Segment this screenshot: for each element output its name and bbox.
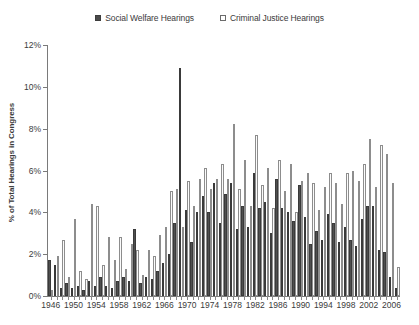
x-axis-tick-label: 1998	[337, 300, 356, 310]
bar-criminal-justice	[397, 267, 399, 296]
x-axis-tick	[312, 296, 313, 300]
x-axis-tick	[284, 296, 285, 300]
plot-area: 0%2%4%6%8%10%12% 19461950195419581962196…	[48, 45, 400, 296]
x-axis-tick	[261, 296, 262, 300]
x-axis-tick	[221, 296, 222, 300]
x-axis-tick	[198, 296, 199, 300]
x-axis-tick-label: 1958	[109, 300, 128, 310]
x-axis-tick	[102, 296, 103, 300]
x-axis-tick	[374, 296, 375, 300]
x-axis-tick	[238, 296, 239, 300]
year-bar-group	[394, 45, 400, 296]
y-axis-tick	[43, 212, 47, 213]
x-axis-tick-label: 1982	[246, 300, 265, 310]
legend-label-criminal-justice: Criminal Justice Hearings	[230, 14, 324, 23]
x-axis-tick-label: 1962	[132, 300, 151, 310]
x-axis-tick	[85, 296, 86, 300]
y-axis-tick-label: 12%	[24, 40, 41, 50]
x-axis-tick	[62, 296, 63, 300]
y-axis-tick-label: 10%	[24, 82, 41, 92]
x-axis-tick-label: 1994	[314, 300, 333, 310]
legend-entry-criminal-justice: Criminal Justice Hearings	[220, 14, 324, 23]
x-axis-tick-label: 1954	[87, 300, 106, 310]
y-axis-tick-label: 0%	[29, 291, 41, 301]
x-axis-tick-label: 2002	[359, 300, 378, 310]
x-axis-tick	[397, 296, 398, 300]
x-axis-tick-label: 1950	[64, 300, 83, 310]
x-axis-tick-label: 2006	[382, 300, 401, 310]
x-axis-tick-label: 1978	[223, 300, 242, 310]
y-axis-tick	[43, 171, 47, 172]
x-axis-tick-label: 1966	[155, 300, 174, 310]
x-axis-tick	[130, 296, 131, 300]
x-axis-tick	[357, 296, 358, 300]
x-axis-tick	[170, 296, 171, 300]
filled-square-icon	[95, 15, 101, 21]
x-axis-tick	[153, 296, 154, 300]
x-axis-tick	[193, 296, 194, 300]
legend-label-social-welfare: Social Welfare Hearings	[105, 14, 194, 23]
x-axis-tick-label: 1946	[41, 300, 60, 310]
x-axis-tick	[108, 296, 109, 300]
chart-legend: Social Welfare Hearings Criminal Justice…	[0, 14, 419, 23]
y-axis-tick	[43, 129, 47, 130]
y-axis-title: % of Total Hearings in Congress	[4, 0, 20, 325]
y-axis-tick-label: 2%	[29, 249, 41, 259]
x-axis-tick	[380, 296, 381, 300]
x-axis-tick-label: 1990	[291, 300, 310, 310]
hollow-square-icon	[220, 15, 226, 21]
x-axis-tick-label: 1974	[200, 300, 219, 310]
x-axis-tick	[306, 296, 307, 300]
y-axis-tick-label: 8%	[29, 124, 41, 134]
y-axis-tick	[43, 254, 47, 255]
y-axis-tick	[43, 296, 47, 297]
x-axis-tick	[267, 296, 268, 300]
x-axis-tick	[244, 296, 245, 300]
x-axis-tick	[352, 296, 353, 300]
x-axis-tick-label: 1970	[178, 300, 197, 310]
y-axis-tick-label: 6%	[29, 166, 41, 176]
bar-chart: Social Welfare Hearings Criminal Justice…	[0, 0, 419, 325]
y-axis-tick-label: 4%	[29, 207, 41, 217]
x-axis-tick	[329, 296, 330, 300]
y-axis-title-text: % of Total Hearings in Congress	[8, 103, 17, 222]
x-axis-tick	[335, 296, 336, 300]
y-axis-tick	[43, 87, 47, 88]
x-axis-tick-label: 1986	[268, 300, 287, 310]
x-axis-tick	[176, 296, 177, 300]
legend-entry-social-welfare: Social Welfare Hearings	[95, 14, 194, 23]
y-axis-tick	[43, 45, 47, 46]
x-axis-tick	[125, 296, 126, 300]
x-axis-tick	[57, 296, 58, 300]
x-axis-tick	[289, 296, 290, 300]
x-axis-tick	[79, 296, 80, 300]
x-axis-tick	[147, 296, 148, 300]
x-axis-tick	[215, 296, 216, 300]
